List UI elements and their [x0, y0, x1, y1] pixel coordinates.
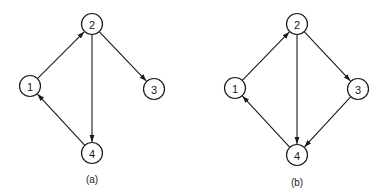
node-4: 4	[287, 145, 308, 166]
node-2: 2	[82, 14, 103, 35]
graph-a: 1234(a)	[20, 14, 165, 186]
figure-caption: (a)	[86, 174, 98, 185]
edge-4-to-1	[242, 96, 289, 147]
edge-2-to-3	[99, 32, 146, 81]
node-3: 3	[144, 79, 165, 100]
node-label: 1	[232, 83, 238, 95]
edge-1-to-2	[242, 32, 289, 81]
node-3: 3	[348, 79, 369, 100]
edge-1-to-2	[37, 32, 84, 79]
directed-graphs-figure: 1234(a) 1234(b)	[0, 0, 385, 196]
edge-2-to-3	[304, 32, 350, 81]
node-label: 4	[294, 150, 300, 162]
node-label: 3	[355, 84, 361, 96]
node-label: 3	[151, 84, 157, 96]
graph-b: 1234(b)	[225, 14, 369, 189]
node-label: 2	[294, 19, 300, 31]
node-2: 2	[287, 14, 308, 35]
edge-3-to-4	[304, 97, 350, 147]
node-label: 4	[89, 148, 95, 160]
figure-caption: (b)	[291, 177, 303, 188]
edge-4-to-1	[37, 94, 84, 145]
node-1: 1	[225, 78, 246, 99]
node-4: 4	[82, 143, 103, 164]
node-label: 1	[27, 81, 33, 93]
node-1: 1	[20, 76, 41, 97]
node-label: 2	[89, 19, 95, 31]
